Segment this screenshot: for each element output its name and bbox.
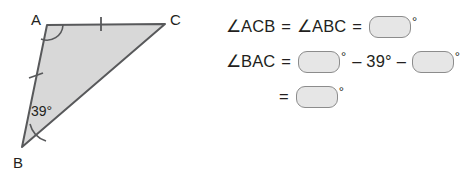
angle-acb-label: ∠ACB — [226, 17, 275, 36]
equation-line-3: = ° — [226, 79, 455, 114]
angle-measure-b: 39° — [31, 104, 52, 118]
equals-sign: = — [346, 17, 368, 36]
answer-blank-line3-wrap: ° — [296, 86, 344, 108]
known-angle-value: 39 — [366, 52, 385, 71]
equations-panel: ∠ACB = ∠ABC = ° ∠BAC = ° – 39 ° – ° = ° — [226, 9, 455, 129]
answer-blank-line2-first-wrap: ° — [298, 51, 346, 73]
minus-sign: – — [347, 52, 366, 71]
answer-blank-line3[interactable] — [296, 86, 338, 108]
answer-blank-line2-second-wrap: ° — [412, 51, 460, 73]
degree-symbol: ° — [341, 50, 346, 63]
vertex-label-c: C — [170, 12, 181, 27]
answer-blank-line2-second[interactable] — [412, 51, 454, 73]
answer-blank-line1[interactable] — [369, 16, 411, 38]
degree-symbol: ° — [412, 15, 417, 28]
answer-blank-line2-first[interactable] — [298, 51, 340, 73]
angle-bac-label: ∠BAC — [226, 52, 275, 71]
angle-abc-label: ∠ABC — [297, 17, 346, 36]
equals-sign: = — [275, 52, 297, 71]
equals-sign: = — [273, 87, 295, 106]
equation-line-2: ∠BAC = ° – 39 ° – ° — [226, 44, 455, 79]
equals-sign: = — [275, 17, 297, 36]
vertex-label-a: A — [31, 12, 41, 27]
triangle-shape — [22, 24, 165, 147]
degree-symbol: ° — [455, 50, 460, 63]
vertex-label-b: B — [13, 155, 23, 170]
degree-symbol: ° — [339, 85, 344, 98]
degree-symbol: ° — [385, 52, 392, 71]
minus-sign: – — [392, 52, 411, 71]
triangle-figure: A C B 39° — [0, 0, 215, 175]
answer-blank-line1-wrap: ° — [369, 16, 417, 38]
equation-line-1: ∠ACB = ∠ABC = ° — [226, 9, 455, 44]
